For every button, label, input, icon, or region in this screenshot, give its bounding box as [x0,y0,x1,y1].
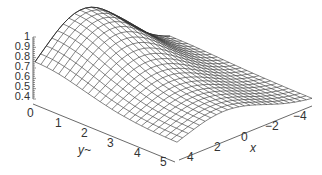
y-axis-title: y~ [78,144,91,156]
y-tick-label: 1 [55,117,62,129]
x-tick-label: 2 [214,141,221,153]
y-tick-label: 0 [27,107,34,119]
x-axis-title: x [250,142,256,154]
z-tick-label: 0.4 [4,91,30,102]
y-tick-label: 5 [160,156,167,168]
y-tick-label: 4 [134,147,141,159]
surface-plot [0,0,322,175]
x-tick-label: 0 [241,131,248,143]
x-tick-label: 4 [187,151,194,163]
x-tick-label: −2 [265,120,279,132]
y-tick-label: 2 [81,127,88,139]
x-tick-label: −4 [293,110,307,122]
y-tick-label: 3 [107,137,114,149]
